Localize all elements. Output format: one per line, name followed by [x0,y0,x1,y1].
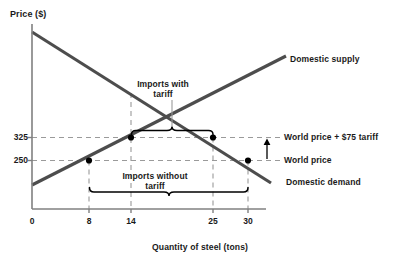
x-tick-label-25: 25 [201,216,225,226]
point-demand-at-world-price [245,157,251,163]
world-price-label: World price [284,155,332,165]
domestic-supply-label: Domestic supply [290,54,360,64]
point-supply-at-tariff-price [128,134,134,140]
point-supply-at-world-price [86,157,92,163]
imports-without-tariff-label: Imports without tariff [110,171,200,191]
domestic-demand-label: Domestic demand [286,177,361,187]
imports-without-tariff-line2: tariff [145,181,165,191]
point-demand-at-tariff-price [210,134,216,140]
x-tick-label-8: 8 [77,216,101,226]
x-axis-title: Quantity of steel (tons) [152,242,248,252]
y-tick-label-325: 325 [2,132,28,142]
world-price-plus-tariff-label: World price + $75 tariff [284,132,378,142]
x-tick-label-30: 30 [236,216,260,226]
imports-with-tariff-line1: Imports with [137,79,189,89]
imports-without-tariff-line1: Imports without [122,171,187,181]
imports-with-tariff-label: Imports with tariff [121,79,205,99]
x-tick-label-0: 0 [20,216,44,226]
y-axis-title: Price ($) [10,9,46,19]
y-tick-label-250: 250 [2,155,28,165]
x-tick-label-14: 14 [119,216,143,226]
imports-with-tariff-line2: tariff [153,89,173,99]
